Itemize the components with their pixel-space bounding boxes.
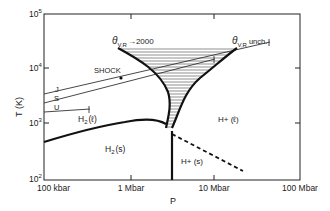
adiabat-u-label: U xyxy=(54,103,59,112)
y-axis-title: T (K) xyxy=(14,97,24,117)
adiabat-s-label: S xyxy=(54,94,59,103)
shock-label: SHOCK xyxy=(94,66,121,75)
region-h2-solid: H2(s) xyxy=(105,144,126,155)
theta-2000-boundary xyxy=(118,48,170,128)
y-label-1e5: 105 xyxy=(29,8,42,19)
y-label-1e4: 104 xyxy=(29,62,42,73)
theta-2000-label: θV,R→2000 xyxy=(112,35,154,48)
region-h2-liquid: H2(ℓ) xyxy=(78,114,97,125)
x-axis-title: P xyxy=(170,196,176,206)
x-label-1Mbar: 1 Mbar xyxy=(118,183,145,193)
x-label-10Mbar: 10 Mbar xyxy=(198,183,229,193)
x-label-100kbar: 100 kbar xyxy=(37,183,70,193)
region-hplus-liquid: H+ (ℓ) xyxy=(218,115,239,124)
y-label-1e3: 103 xyxy=(29,117,42,128)
region-hplus-solid: H+ (s) xyxy=(181,157,203,166)
adiabat-j-label: J xyxy=(55,85,59,94)
theta-unch-label: θV,Runch. xyxy=(232,35,267,48)
adiabat-s xyxy=(44,59,215,103)
adiabat-u xyxy=(44,109,90,112)
phase-diagram: 105 104 103 102 T (K) 100 kbar 1 Mbar 10… xyxy=(0,0,330,211)
h2-melting-curve xyxy=(44,120,166,142)
x-label-100Mbar: 100 Mbar xyxy=(282,183,318,193)
shock-point xyxy=(119,76,122,79)
